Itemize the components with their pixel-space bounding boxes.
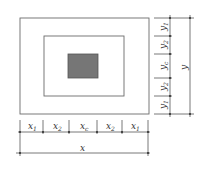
label-y1-top: y1 — [158, 22, 169, 32]
label-xc: xc — [80, 121, 89, 132]
label-y2-bottom: y2 — [158, 82, 169, 92]
dimension-diagram: x1 x2 xc x2 x1 x y1 y2 yc y2 y1 — [0, 0, 203, 169]
core-rectangle — [68, 54, 98, 78]
label-yc: yc — [158, 61, 169, 71]
label-x-total: x — [80, 143, 85, 153]
label-y2-top: y2 — [158, 40, 169, 50]
label-x2-left: x2 — [53, 121, 62, 132]
label-x1-right: x1 — [131, 121, 140, 132]
label-x2-right: x2 — [106, 121, 115, 132]
vertical-total-dimension: y — [179, 15, 191, 117]
label-y1-bottom: y1 — [158, 100, 169, 110]
label-x1-left: x1 — [28, 121, 37, 132]
horizontal-total-dimension: x — [16, 143, 150, 154]
label-y-total: y — [179, 64, 189, 71]
